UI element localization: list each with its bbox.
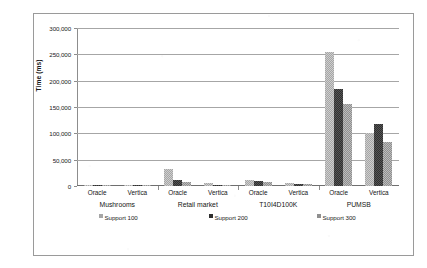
legend-item[interactable]: Support 100 <box>99 214 138 221</box>
bar[interactable] <box>102 185 111 186</box>
bar[interactable] <box>124 185 133 186</box>
y-tick-mark <box>74 133 77 134</box>
y-tick-label: 300,000 <box>49 25 71 32</box>
bar[interactable] <box>142 185 151 186</box>
legend-item[interactable]: Support 200 <box>209 214 248 221</box>
legend-swatch-icon <box>99 214 103 218</box>
bar-cluster <box>204 28 231 186</box>
y-tick-mark <box>74 54 77 55</box>
y-tick-label: 200,000 <box>49 77 71 84</box>
bar[interactable] <box>285 183 294 186</box>
bar[interactable] <box>325 52 334 186</box>
y-tick-mark <box>74 107 77 108</box>
x-group-separator <box>238 186 239 190</box>
chart-legend: Support 100Support 200Support 300 <box>77 214 399 228</box>
bar-cluster <box>124 28 151 186</box>
bar[interactable] <box>245 180 254 186</box>
legend-item[interactable]: Support 300 <box>317 214 356 221</box>
y-tick-label: 250,000 <box>49 51 71 58</box>
bar-cluster <box>365 28 392 186</box>
bar[interactable] <box>164 169 173 186</box>
bar[interactable] <box>374 124 383 186</box>
y-tick-mark <box>74 160 77 161</box>
bar[interactable] <box>365 133 374 186</box>
bar[interactable] <box>263 182 272 186</box>
plot-area: 300,000250,000200,000150,000100,00050,00… <box>77 28 399 186</box>
bar[interactable] <box>84 185 93 186</box>
legend-label: Support 300 <box>323 214 356 221</box>
bar[interactable] <box>383 142 392 186</box>
x-group-label: Mushrooms <box>99 201 135 208</box>
bar[interactable] <box>254 181 263 186</box>
bar[interactable] <box>343 104 352 186</box>
bar[interactable] <box>93 185 102 186</box>
bar[interactable] <box>222 185 231 186</box>
y-tick-label: 100,000 <box>49 130 71 137</box>
bar[interactable] <box>334 89 343 186</box>
x-group-separator <box>158 186 159 190</box>
x-sub-label: Vertica <box>369 189 389 196</box>
legend-label: Support 100 <box>105 214 138 221</box>
x-sub-label: Oracle <box>249 189 268 196</box>
x-group-label: Retail market <box>178 201 218 208</box>
bar[interactable] <box>294 184 303 186</box>
x-sub-label: Oracle <box>168 189 187 196</box>
chart-figure: Time (ms) 300,000250,000200,000150,00010… <box>0 0 427 268</box>
bar[interactable] <box>213 185 222 186</box>
y-tick-label: 150,000 <box>49 104 71 111</box>
legend-label: Support 200 <box>215 214 248 221</box>
bar[interactable] <box>173 180 182 186</box>
y-tick-mark <box>74 28 77 29</box>
y-tick-label: 50,000 <box>53 156 71 163</box>
x-sub-label: Vertica <box>128 189 148 196</box>
bar[interactable] <box>303 184 312 186</box>
x-sub-label: Vertica <box>289 189 309 196</box>
x-sub-label: Oracle <box>88 189 107 196</box>
bar[interactable] <box>133 185 142 186</box>
x-group-label: T10I4D100K <box>259 201 297 208</box>
x-group-separator <box>319 186 320 190</box>
x-sub-label: Vertica <box>208 189 228 196</box>
y-tick-label: 0 <box>68 183 71 190</box>
legend-swatch-icon <box>317 214 321 218</box>
bar-cluster <box>245 28 272 186</box>
y-tick-mark <box>74 81 77 82</box>
bar-cluster <box>84 28 111 186</box>
y-tick-mark <box>74 186 77 187</box>
bar-cluster <box>325 28 352 186</box>
x-group-label: PUMSB <box>347 201 371 208</box>
bar[interactable] <box>182 182 191 186</box>
bar-cluster <box>285 28 312 186</box>
bar[interactable] <box>204 183 213 186</box>
x-sub-label: Oracle <box>329 189 348 196</box>
bar-cluster <box>164 28 191 186</box>
y-axis-title: Time (ms) <box>35 31 42 121</box>
legend-swatch-icon <box>209 214 213 218</box>
